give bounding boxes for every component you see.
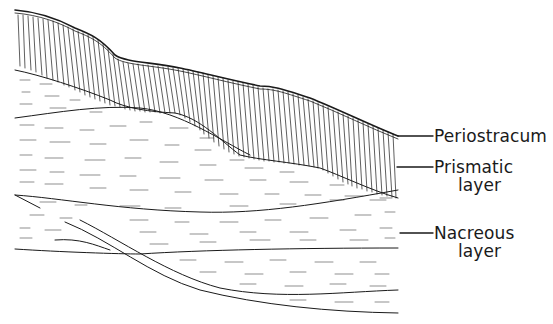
label-periostracum-text: Periostracum [434,126,547,146]
label-nacreous-layer: Nacreous layer [434,224,514,260]
label-periostracum: Periostracum [434,127,547,145]
periostracum-outline [15,10,398,136]
prismatic-lower-boundary [15,70,398,198]
label-prismatic-text: Prismatic [434,157,513,177]
label-prismatic-layer: Prismatic layer [434,158,513,194]
prismatic-columns [18,15,396,198]
label-prismatic-text-line2: layer [434,176,513,194]
label-nacreous-text: Nacreous [434,223,514,243]
label-nacreous-text-line2: layer [434,242,514,260]
